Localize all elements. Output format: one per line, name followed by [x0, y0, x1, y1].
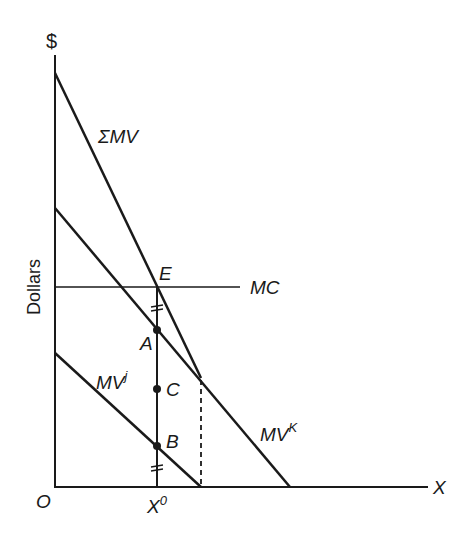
origin-label: O — [36, 491, 51, 512]
point-c-label: C — [166, 379, 180, 400]
x-axis-label: X — [432, 477, 447, 498]
point-c-dot — [153, 385, 161, 393]
dollar-symbol: $ — [46, 30, 57, 52]
public-good-diagram: $ Dollars O X X0 ΣMV MC MVK MVj E A C B — [0, 0, 468, 540]
point-b-dot — [153, 442, 161, 450]
mv-j-label: MVj — [96, 368, 129, 393]
mv-j-curve — [55, 353, 201, 487]
x0-sup: 0 — [160, 493, 168, 508]
mv-k-label: MVK — [260, 420, 299, 445]
point-a-dot — [153, 326, 161, 334]
sum-mv-curve — [55, 73, 201, 378]
mc-label: MC — [250, 277, 280, 298]
y-axis-label: Dollars — [24, 259, 44, 315]
point-b-label: B — [166, 431, 179, 452]
mv-k-sup: K — [289, 420, 299, 435]
point-e-label: E — [159, 263, 172, 284]
point-a-label: A — [139, 333, 153, 354]
mv-j-base: MV — [96, 372, 127, 393]
sum-mv-label: ΣMV — [97, 126, 140, 147]
mv-k-base: MV — [260, 424, 291, 445]
x0-label: X0 — [146, 493, 168, 517]
